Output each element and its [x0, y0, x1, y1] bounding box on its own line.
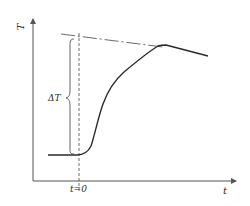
- x-axis-label: t: [223, 186, 227, 196]
- y-axis-label: T: [16, 24, 26, 31]
- extrapolated-asymptote-line: [61, 34, 163, 47]
- t0-label: t=0: [70, 185, 87, 194]
- diagram-canvas: [0, 0, 250, 206]
- response-curve: [48, 45, 208, 155]
- delta-t-brace: [66, 39, 74, 154]
- temperature-response-diagram: T t t=0 ΔT: [0, 0, 250, 206]
- delta-t-label: ΔT: [48, 94, 61, 103]
